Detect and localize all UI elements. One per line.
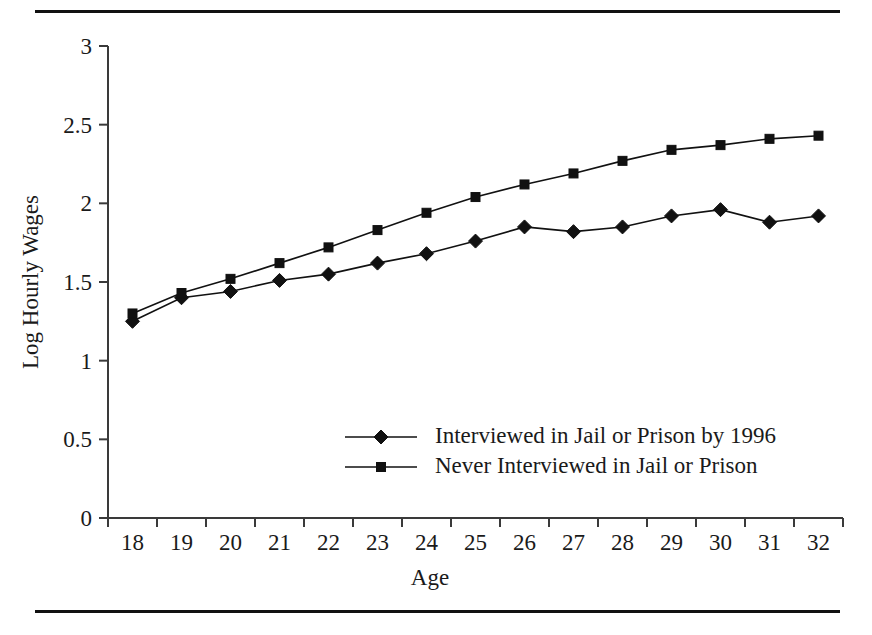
- data-point-square: [520, 180, 529, 189]
- y-tick-label: 1.5: [63, 270, 92, 295]
- y-tick-label: 3: [81, 34, 93, 59]
- x-tick-label: 32: [807, 530, 830, 555]
- data-point-diamond: [371, 256, 385, 270]
- data-point-square: [275, 259, 284, 268]
- data-point-square: [177, 289, 186, 298]
- x-tick-label: 28: [611, 530, 634, 555]
- data-point-square: [667, 145, 676, 154]
- data-point-diamond: [322, 267, 336, 281]
- data-point-diamond: [665, 209, 679, 223]
- x-tick-label: 31: [758, 530, 781, 555]
- data-point-square: [373, 226, 382, 235]
- x-tick-label: 18: [121, 530, 144, 555]
- data-point-diamond: [224, 284, 238, 298]
- data-point-square: [716, 141, 725, 150]
- y-tick-label: 1: [81, 349, 93, 374]
- x-axis-title: Age: [411, 565, 449, 590]
- y-tick-label: 0.5: [63, 427, 92, 452]
- series-line-1: [133, 136, 819, 314]
- data-point-diamond: [374, 430, 388, 444]
- y-tick-label: 0: [81, 506, 93, 531]
- x-tick-label: 20: [219, 530, 242, 555]
- figure-container: 00.511.522.53 18192021222324252627282930…: [0, 0, 872, 635]
- x-tick-label: 30: [709, 530, 732, 555]
- data-point-square: [128, 309, 137, 318]
- x-tick-label: 26: [513, 530, 536, 555]
- data-point-square: [377, 463, 386, 472]
- x-tick-label: 29: [660, 530, 683, 555]
- legend-label-1: Never Interviewed in Jail or Prison: [435, 453, 758, 478]
- legend-label-0: Interviewed in Jail or Prison by 1996: [435, 423, 776, 448]
- y-tick-label: 2.5: [63, 113, 92, 138]
- x-tick-label: 25: [464, 530, 487, 555]
- data-point-square: [422, 208, 431, 217]
- data-point-diamond: [714, 203, 728, 217]
- series-line-0: [133, 210, 819, 322]
- line-chart: 00.511.522.53 18192021222324252627282930…: [0, 0, 872, 635]
- chart-legend: Interviewed in Jail or Prison by 1996Nev…: [345, 423, 776, 478]
- data-point-diamond: [763, 215, 777, 229]
- data-point-square: [618, 156, 627, 165]
- data-point-square: [471, 193, 480, 202]
- data-point-square: [226, 274, 235, 283]
- x-tick-label: 19: [170, 530, 193, 555]
- data-point-square: [765, 134, 774, 143]
- data-point-diamond: [616, 220, 630, 234]
- data-point-diamond: [812, 209, 826, 223]
- x-tick-label: 22: [317, 530, 340, 555]
- data-point-diamond: [469, 234, 483, 248]
- x-axis: 181920212223242526272829303132: [108, 518, 843, 555]
- data-point-diamond: [567, 225, 581, 239]
- data-point-diamond: [420, 247, 434, 261]
- y-tick-label: 2: [81, 191, 93, 216]
- x-tick-label: 21: [268, 530, 291, 555]
- y-axis: 00.511.522.53: [63, 34, 108, 531]
- series-layer: [126, 131, 826, 328]
- data-point-diamond: [273, 273, 287, 287]
- data-point-square: [324, 243, 333, 252]
- x-tick-label: 23: [366, 530, 389, 555]
- x-tick-label: 24: [415, 530, 439, 555]
- y-axis-title: Log Hourly Wages: [18, 195, 43, 369]
- data-point-square: [814, 131, 823, 140]
- data-point-square: [569, 169, 578, 178]
- x-tick-label: 27: [562, 530, 585, 555]
- data-point-diamond: [518, 220, 532, 234]
